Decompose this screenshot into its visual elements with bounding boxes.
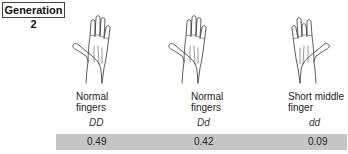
frequency-value: 0.49 [87, 136, 106, 148]
phenotype-label: Normal fingers [76, 91, 108, 113]
phenotype-label-line2: finger [288, 102, 344, 113]
generation-title: Generation 2 [2, 2, 65, 18]
genotype-label: dd [309, 117, 320, 128]
genotype-label: DD [89, 117, 103, 128]
hand-normal-fingers-icon [64, 12, 130, 84]
phenotype-label: Normal fingers [191, 91, 223, 113]
phenotype-label-line2: fingers [76, 102, 108, 113]
hand-short-middle-finger-icon [272, 12, 338, 84]
frequency-value: 0.42 [194, 136, 213, 148]
phenotype-label-line1: Normal [76, 91, 108, 102]
frequency-value: 0.09 [308, 136, 327, 148]
phenotype-label-line1: Short middle [288, 91, 344, 102]
hand-normal-fingers-icon [160, 12, 226, 84]
phenotype-label: Short middle finger [288, 91, 344, 113]
phenotype-label-line2: fingers [191, 102, 223, 113]
phenotype-label-line1: Normal [191, 91, 223, 102]
genotype-label: Dd [197, 117, 210, 128]
